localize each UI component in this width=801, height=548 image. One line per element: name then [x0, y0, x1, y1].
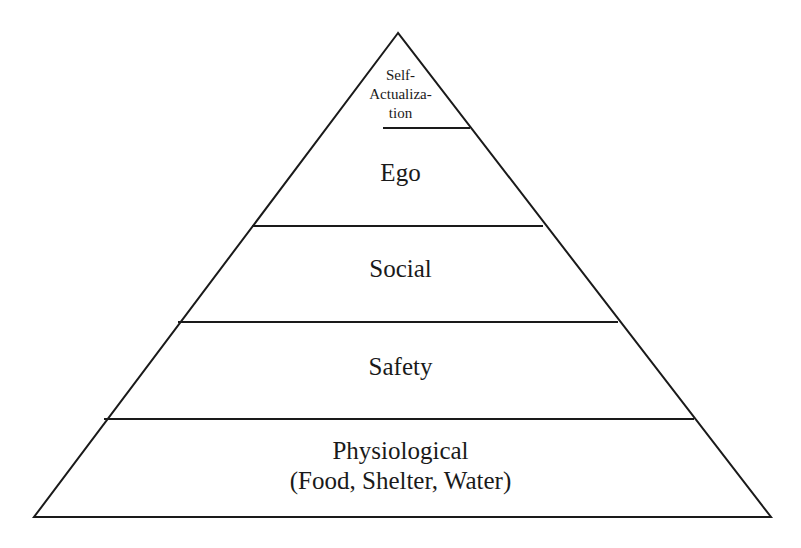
level-label: tion [0, 104, 801, 123]
level-social: Social [0, 254, 801, 284]
pyramid-diagram: Self- Actualiza- tion Ego Social Safety … [0, 0, 801, 548]
level-self-actualization: Self- Actualiza- tion [0, 66, 801, 123]
level-label: Self- [0, 66, 801, 85]
level-label: Physiological [0, 436, 801, 466]
level-label: (Food, Shelter, Water) [0, 466, 801, 496]
level-label: Actualiza- [0, 85, 801, 104]
level-safety: Safety [0, 352, 801, 382]
level-physiological: Physiological (Food, Shelter, Water) [0, 436, 801, 496]
level-label: Social [0, 254, 801, 284]
level-label: Ego [0, 158, 801, 188]
level-ego: Ego [0, 158, 801, 188]
level-label: Safety [0, 352, 801, 382]
